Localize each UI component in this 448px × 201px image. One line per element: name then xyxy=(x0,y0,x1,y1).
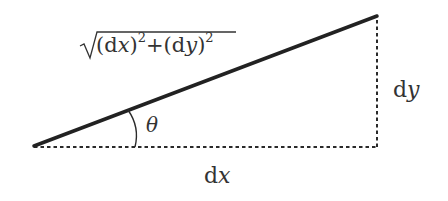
exponent-1: 2 xyxy=(138,30,146,45)
dx-d: d xyxy=(204,163,218,188)
arc-length-triangle-diagram: (dx)2+(dy)2 θ dy dx xyxy=(0,0,448,201)
height-dy-label: dy xyxy=(393,79,420,101)
paren-open-1: ( xyxy=(96,33,104,57)
variable-y-1: y xyxy=(185,33,197,57)
hypotenuse-radicand: (dx)2+(dy)2 xyxy=(96,35,214,56)
differential-d-2: d xyxy=(172,33,185,57)
angle-theta-label: θ xyxy=(146,115,158,135)
base-dx-label: dx xyxy=(204,165,231,187)
paren-close-1: ) xyxy=(130,33,138,57)
dy-d: d xyxy=(393,77,407,102)
angle-arc xyxy=(128,110,136,147)
plus-sign: + xyxy=(146,33,164,57)
exponent-2: 2 xyxy=(205,30,213,45)
paren-open-2: ( xyxy=(164,33,172,57)
dx-x: x xyxy=(218,163,230,188)
differential-d-1: d xyxy=(104,33,117,57)
dy-y: y xyxy=(407,77,419,102)
variable-x-1: x xyxy=(118,33,130,57)
